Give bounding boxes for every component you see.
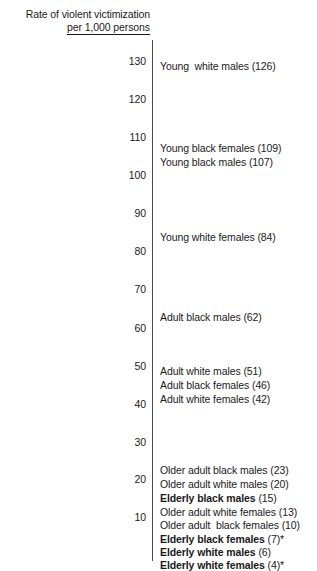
data-label: Young black males (107)	[160, 156, 273, 168]
data-label-name: Young white males	[160, 60, 249, 72]
data-label-name: Older adult black females	[160, 519, 279, 531]
data-label-name: Elderly black females	[160, 533, 265, 545]
data-label-value: (10)	[282, 519, 300, 531]
data-label: Young white females (84)	[160, 231, 276, 243]
data-label-name: Young black females	[160, 142, 255, 154]
axis-tick-120: 120	[0, 93, 146, 105]
data-label-value: (62)	[243, 311, 261, 323]
data-label-name: Adult white males	[160, 365, 241, 377]
data-label: Older adult black males (23)	[160, 464, 289, 476]
data-label-value: (13)	[279, 506, 297, 518]
chart-figure: Rate of violent victimization per 1,000 …	[0, 0, 317, 571]
chart-title-line-1: Rate of violent victimization	[0, 8, 152, 21]
data-label: Elderly white females (4)*	[160, 559, 284, 571]
data-label: Adult white females (42)	[160, 393, 270, 405]
data-label-name: Older adult black males	[160, 464, 267, 476]
data-label-value: (84)	[257, 231, 275, 243]
data-label-name: Adult black males	[160, 311, 241, 323]
data-label-name: Young white females	[160, 231, 255, 243]
data-label-value: (6)	[258, 546, 271, 558]
data-label-name: Adult white females	[160, 393, 249, 405]
data-label-name: Elderly black males	[160, 492, 256, 504]
data-label: Elderly black females (7)*	[160, 533, 284, 545]
data-label: Young white males (126)	[160, 60, 276, 72]
data-label-value: (107)	[249, 156, 273, 168]
data-label-value: (20)	[270, 478, 288, 490]
axis-tick-20: 20	[0, 473, 146, 485]
axis-tick-60: 60	[0, 322, 146, 334]
axis-tick-80: 80	[0, 245, 146, 257]
data-label-value: (126)	[252, 60, 276, 72]
data-label: Adult black males (62)	[160, 311, 262, 323]
data-label: Elderly white males (6)	[160, 546, 271, 558]
data-label-value: (109)	[257, 142, 281, 154]
axis-tick-30: 30	[0, 436, 146, 448]
data-label-name: Adult black females	[160, 379, 249, 391]
axis-tick-90: 90	[0, 207, 146, 219]
data-label-value: (7)*	[268, 533, 285, 545]
data-label-value: (15)	[258, 492, 276, 504]
chart-title: Rate of violent victimization per 1,000 …	[0, 8, 152, 35]
data-label-value: (4)*	[268, 559, 285, 571]
data-label: Older adult black females (10)	[160, 519, 300, 531]
axis-tick-40: 40	[0, 398, 146, 410]
data-label: Elderly black males (15)	[160, 492, 277, 504]
data-label-name: Older adult white males	[160, 478, 267, 490]
data-label: Older adult white females (13)	[160, 506, 297, 518]
axis-tick-70: 70	[0, 283, 146, 295]
axis-tick-10: 10	[0, 511, 146, 523]
data-label-value: (51)	[243, 365, 261, 377]
data-label-value: (42)	[252, 393, 270, 405]
vertical-axis-line	[152, 40, 153, 561]
data-label: Adult black females (46)	[160, 379, 270, 391]
data-label-value: (46)	[252, 379, 270, 391]
data-label-name: Elderly white males	[160, 546, 256, 558]
data-label: Adult white males (51)	[160, 365, 262, 377]
axis-tick-50: 50	[0, 360, 146, 372]
data-label-name: Elderly white females	[160, 559, 265, 571]
data-label: Young black females (109)	[160, 142, 281, 154]
data-label-value: (23)	[270, 464, 288, 476]
data-label: Older adult white males (20)	[160, 478, 289, 490]
chart-title-line-2: per 1,000 persons	[67, 21, 150, 35]
data-label-name: Young black males	[160, 156, 246, 168]
axis-tick-110: 110	[0, 131, 146, 143]
axis-tick-100: 100	[0, 169, 146, 181]
data-label-name: Older adult white females	[160, 506, 276, 518]
axis-tick-130: 130	[0, 55, 146, 67]
